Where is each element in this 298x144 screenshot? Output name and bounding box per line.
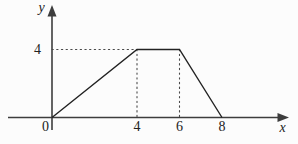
y-tick-label-4: 4 [34,42,41,57]
y-axis-arrowhead-icon [48,5,57,17]
axis-letters: y x [36,0,286,135]
x-tick-label-4: 4 [134,119,141,134]
x-tick-label-8: 8 [219,119,226,134]
origin-tick-label: 0 [42,119,49,134]
y-axis-label: y [36,0,45,15]
function-graph-svg: 0 4 6 8 4 y x [0,0,298,144]
axes [8,5,289,130]
function-graph-figure: 0 4 6 8 4 y x [0,0,298,144]
x-tick-label-6: 6 [176,119,183,134]
dotted-guides [52,50,180,118]
x-axis-label: x [278,120,286,135]
